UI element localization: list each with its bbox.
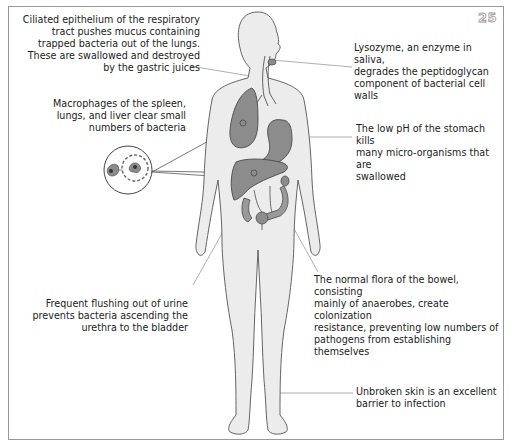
label-line: component of bacterial cell walls bbox=[354, 78, 504, 102]
label-line: barrier to infection bbox=[356, 398, 506, 410]
label-skin: Unbroken skin is an excellent barrier to… bbox=[356, 386, 506, 410]
body-silhouette bbox=[196, 12, 320, 434]
label-line: numbers of bacteria bbox=[40, 122, 186, 134]
label-line: many micro-organisms that are bbox=[356, 147, 506, 171]
label-line: tract pushes mucus containing bbox=[14, 26, 200, 38]
label-line: The normal flora of the bowel, consistin… bbox=[314, 274, 506, 298]
label-line: urethra to the bladder bbox=[30, 322, 188, 334]
bladder bbox=[256, 212, 268, 224]
label-urine: Frequent flushing out of urine prevents … bbox=[30, 298, 188, 334]
label-line: Lysozyme, an enzyme in saliva, bbox=[354, 42, 504, 66]
label-line: mainly of anaerobes, create colonization bbox=[314, 298, 506, 322]
label-line: Macrophages of the spleen, bbox=[40, 98, 186, 110]
label-line: degrades the peptidoglycan bbox=[354, 66, 504, 78]
label-line: These are swallowed and destroyed bbox=[14, 50, 200, 62]
spleen bbox=[281, 176, 289, 186]
label-line: swallowed bbox=[356, 171, 506, 183]
label-bowel: The normal flora of the bowel, consistin… bbox=[314, 274, 506, 358]
label-macrophages: Macrophages of the spleen, lungs, and li… bbox=[40, 98, 186, 134]
label-lysozyme: Lysozyme, an enzyme in saliva, degrades … bbox=[354, 42, 504, 102]
label-line: pathogens from establishing themselves bbox=[314, 334, 506, 358]
macrophage-inset bbox=[104, 146, 152, 194]
leader-lysozyme bbox=[272, 60, 352, 67]
label-line: resistance, preventing low numbers of bbox=[314, 322, 506, 334]
label-stomach: The low pH of the stomach kills many mic… bbox=[356, 123, 506, 183]
label-line: Unbroken skin is an excellent bbox=[356, 386, 506, 398]
label-line: trapped bacteria out of the lungs. bbox=[14, 38, 200, 50]
label-line: The low pH of the stomach kills bbox=[356, 123, 506, 147]
label-line: Ciliated epithelium of the respiratory bbox=[14, 14, 200, 26]
label-line: lungs, and liver clear small bbox=[40, 110, 186, 122]
label-respiratory: Ciliated epithelium of the respiratory t… bbox=[14, 14, 200, 74]
label-line: by the gastric juices bbox=[14, 62, 200, 74]
label-line: prevents bacteria ascending the bbox=[30, 310, 188, 322]
salivary-gland bbox=[268, 59, 276, 65]
label-line: Frequent flushing out of urine bbox=[30, 298, 188, 310]
